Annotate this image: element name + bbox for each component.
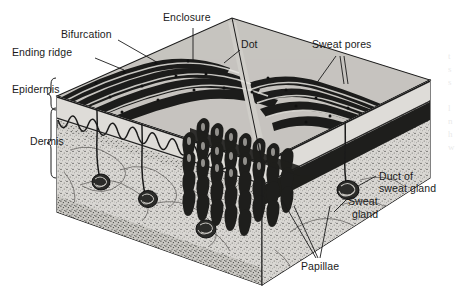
label-ending-ridge: Ending ridge xyxy=(12,46,72,58)
label-epidermis: Epidermis xyxy=(12,83,60,95)
label-duct-of-sweat-gland-line2: sweat gland xyxy=(379,182,436,195)
label-dot: Dot xyxy=(241,38,258,50)
label-sweat-gland-line1: Sweat xyxy=(348,195,378,208)
label-enclosure: Enclosure xyxy=(163,11,211,23)
label-duct-of-sweat-gland-line1: Duct of xyxy=(379,170,413,183)
label-papillae: Papillae xyxy=(301,260,339,272)
leader-ending-ridge xyxy=(95,58,124,70)
label-sweat-gland-line2: gland xyxy=(352,208,378,221)
label-bifurcation: Bifurcation xyxy=(61,28,112,40)
label-sweat-pores: Sweat pores xyxy=(312,38,371,50)
label-dermis: Dermis xyxy=(30,135,64,147)
